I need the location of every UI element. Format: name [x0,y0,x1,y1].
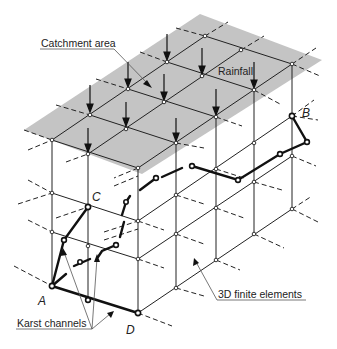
karst-channels-label: Karst channels [17,317,86,329]
point-a-label: A [38,295,46,307]
point-b-label: B [302,107,310,119]
finite-elements-label: 3D finite elements [218,288,302,300]
catchment-area-label: Catchment area [41,37,116,49]
point-c-label: C [92,191,101,203]
rainfall-label: Rainfall [218,65,253,77]
point-d-label: D [126,324,135,336]
